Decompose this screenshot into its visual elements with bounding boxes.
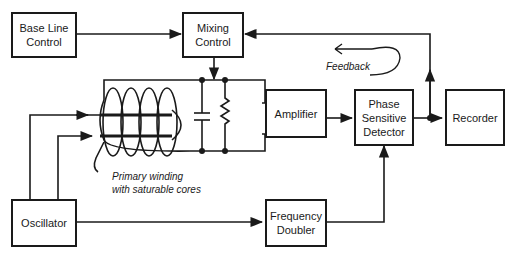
feedback-label: Feedback: [326, 60, 370, 73]
phase-sensitive-detector-block: Phase Sensitive Detector: [354, 89, 414, 146]
tank-top-rail: [104, 80, 265, 103]
osc-wire-2: [58, 136, 92, 200]
osc-wire-1: [30, 115, 100, 200]
recorder-block: Recorder: [445, 89, 505, 146]
primary-winding-label: Primary winding with saturable cores: [112, 170, 201, 196]
doubler-to-psd-arrow: [327, 146, 384, 222]
oscillator-block: Oscillator: [11, 199, 77, 247]
amplifier-block: Amplifier: [265, 89, 327, 138]
diagram-wiring: [0, 0, 516, 258]
frequency-doubler-block: Frequency Doubler: [265, 199, 327, 247]
mixing-control-block: Mixing Control: [182, 12, 244, 58]
base-line-control-block: Base Line Control: [11, 12, 77, 58]
